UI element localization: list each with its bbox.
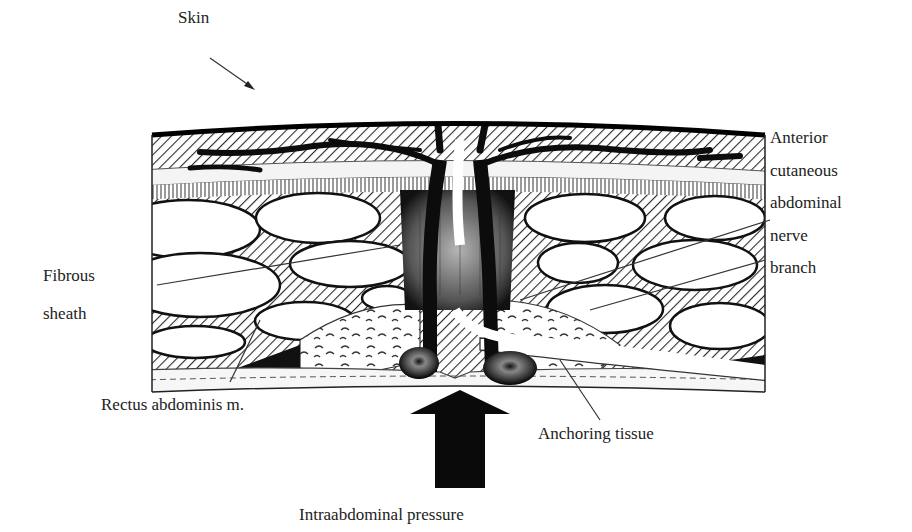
- tissue-section: [116, 100, 780, 410]
- label-nerve-line-1: Anterior: [770, 122, 842, 155]
- label-nerve-line-3: abdominal: [770, 187, 842, 220]
- label-anchoring-tissue: Anchoring tissue: [538, 420, 654, 447]
- label-fibrous-line-2: sheath: [43, 295, 95, 333]
- label-nerve-line-2: cutaneous: [770, 155, 842, 188]
- label-fibrous-line-1: Fibrous: [43, 257, 95, 295]
- label-rectus-abdominis: Rectus abdominis m.: [101, 391, 244, 418]
- label-skin: Skin: [178, 4, 209, 31]
- label-fibrous-sheath: Fibrous sheath: [43, 257, 95, 333]
- vessel-right: [483, 351, 537, 385]
- label-intraabdominal-pressure: Intraabdominal pressure: [299, 501, 464, 528]
- label-nerve-line-5: branch: [770, 252, 842, 285]
- vessel-left: [399, 347, 439, 379]
- label-nerve-line-4: nerve: [770, 220, 842, 253]
- pressure-arrow-icon: [410, 390, 510, 488]
- label-nerve-branch: Anterior cutaneous abdominal nerve branc…: [770, 122, 842, 285]
